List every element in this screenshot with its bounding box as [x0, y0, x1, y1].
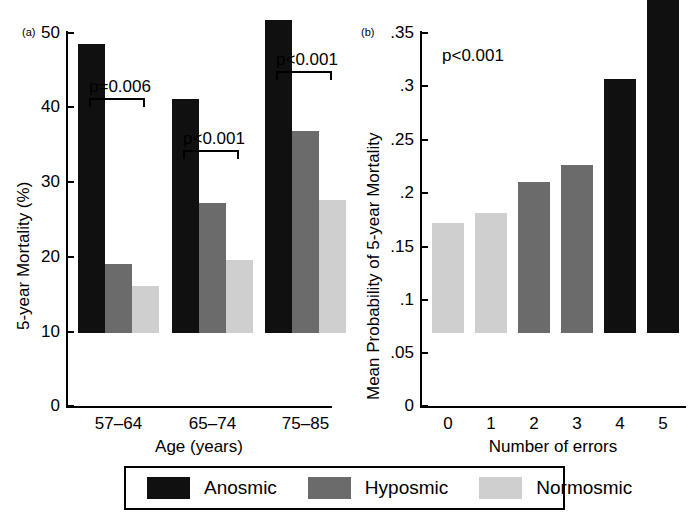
panel-a-ytick-label-40: 40 [18, 98, 60, 115]
legend-swatch-anosmic [147, 477, 190, 499]
panel-a-x-axis-title: Age (years) [66, 437, 332, 457]
panel-b-xtick-label-3: 3 [561, 415, 593, 432]
panel-a-ytick-50 [68, 32, 74, 34]
bar-errors-2 [518, 182, 550, 333]
pvalue-bracket-65-74 [183, 150, 239, 159]
panel-a-ytick-20 [68, 256, 74, 258]
panel-b-xtick-label-5: 5 [647, 415, 679, 432]
bar-hyposmic-57-64 [105, 264, 132, 333]
pvalue-label-65-74: p<0.001 [183, 130, 245, 147]
panel-b-ytick-005 [422, 352, 428, 354]
pvalue-label-panel-b: p<0.001 [442, 47, 504, 64]
pvalue-bracket-75-85 [276, 71, 332, 80]
panel-b-ytick-025 [422, 139, 428, 141]
figure-container: (a) 50 40 30 20 10 0 5-year Mortality (%… [0, 0, 689, 523]
panel-b-xtick-label-4: 4 [604, 415, 636, 432]
panel-a-ytick-40 [68, 106, 74, 108]
panel-b-ytick-01 [422, 299, 428, 301]
legend-item-normosmic: Normosmic [479, 468, 632, 508]
panel-a-ytick-label-50: 50 [18, 24, 60, 41]
panel-b-ytick-label-035: .35 [368, 24, 414, 41]
bar-errors-0 [432, 223, 464, 333]
bar-hyposmic-75-85 [292, 131, 319, 333]
legend: Anosmic Hyposmic Normosmic [124, 466, 565, 510]
legend-item-anosmic: Anosmic [147, 468, 277, 508]
legend-swatch-normosmic [479, 477, 522, 499]
panel-b-y-axis-title: Mean Probability of 5-year Mortality [364, 133, 384, 400]
panel-b-xtick-label-2: 2 [518, 415, 550, 432]
panel-b-x-axis [420, 406, 686, 408]
panel-a-ytick-label-0: 0 [18, 397, 60, 414]
legend-label-anosmic: Anosmic [204, 477, 277, 499]
panel-a-y-axis-title: 5-year Mortality (%) [14, 182, 34, 330]
panel-b-ytick-02 [422, 192, 428, 194]
panel-a-ytick-0 [68, 405, 74, 407]
pvalue-label-75-85: p<0.001 [276, 51, 338, 68]
panel-a-xtick-label-0: 57–64 [78, 415, 159, 432]
pvalue-label-57-64: p=0.006 [89, 78, 151, 95]
bar-errors-5 [647, 0, 679, 333]
panel-b-ytick-015 [422, 246, 428, 248]
panel-b-xtick-label-1: 1 [475, 415, 507, 432]
panel-a-x-axis [66, 406, 332, 408]
legend-label-normosmic: Normosmic [536, 477, 632, 499]
panel-a-ytick-10 [68, 331, 74, 333]
legend-item-hyposmic: Hyposmic [308, 468, 448, 508]
bar-normosmic-57-64 [132, 286, 159, 333]
pvalue-bracket-57-64 [89, 98, 145, 107]
panel-b-x-axis-title: Number of errors [420, 437, 686, 457]
panel-b-ytick-0 [422, 405, 428, 407]
panel-a-xtick-label-1: 65–74 [172, 415, 253, 432]
panel-a-y-axis [66, 31, 68, 408]
bar-hyposmic-65-74 [199, 203, 226, 333]
bar-normosmic-65-74 [226, 260, 253, 333]
panel-b-ytick-label-03: .3 [368, 77, 414, 94]
panel-b-ytick-03 [422, 85, 428, 87]
panel-a-xtick-label-2: 75–85 [265, 415, 346, 432]
bar-errors-1 [475, 213, 507, 333]
panel-a-ytick-30 [68, 181, 74, 183]
bar-errors-3 [561, 165, 593, 333]
panel-b-chart: (b) .35 .3 .25 .2 .15 .1 .05 0 Mean Prob… [344, 0, 689, 450]
panel-b-ytick-035 [422, 32, 428, 34]
bar-errors-4 [604, 79, 636, 333]
bar-normosmic-75-85 [319, 200, 346, 333]
panel-a-chart: (a) 50 40 30 20 10 0 5-year Mortality (%… [0, 0, 345, 450]
legend-label-hyposmic: Hyposmic [365, 477, 448, 499]
legend-swatch-hyposmic [308, 477, 351, 499]
panel-b-xtick-label-0: 0 [432, 415, 464, 432]
